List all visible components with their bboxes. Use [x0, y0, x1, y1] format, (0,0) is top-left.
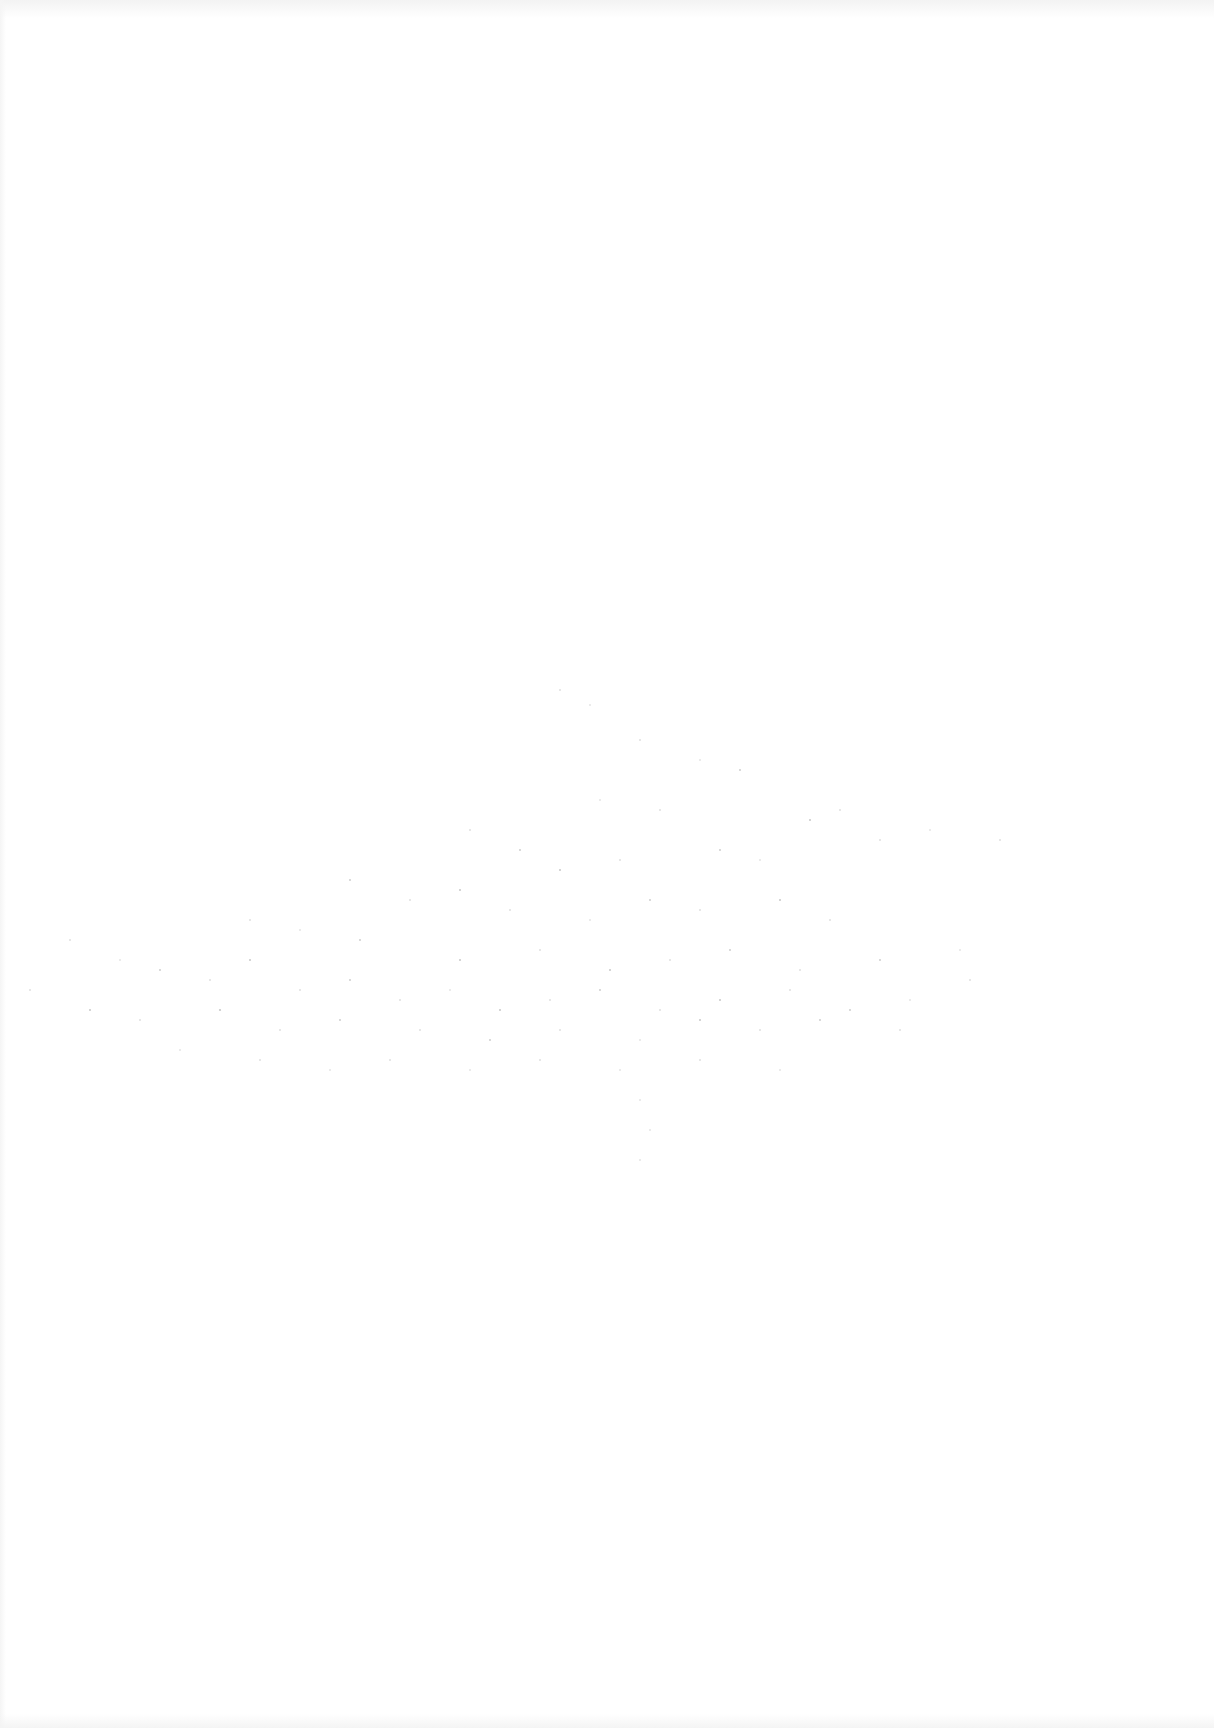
scan-edge-top: [0, 0, 1214, 18]
blank-page: [0, 0, 1214, 1728]
scan-noise-speckles: [0, 660, 1214, 1180]
scan-edge-bottom: [0, 1714, 1214, 1728]
